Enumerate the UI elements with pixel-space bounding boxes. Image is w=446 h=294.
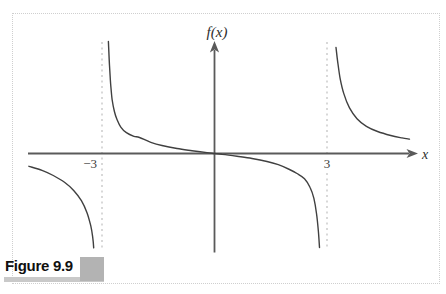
- x-axis-label: x: [421, 147, 429, 162]
- x-tick-label-pos3: 3: [324, 156, 331, 171]
- y-axis-label: f(x): [207, 24, 228, 41]
- curve-branch: [29, 166, 94, 248]
- x-tick-label-neg3: −3: [83, 156, 97, 171]
- function-graph: −3 3 f(x) x: [0, 0, 446, 294]
- caption-gray-block: [80, 257, 104, 281]
- curve-branch: [336, 48, 410, 140]
- figure-page: { "figure": { "caption": "Figure 9.9" },…: [0, 0, 446, 294]
- axes: [28, 41, 418, 253]
- figure-caption-text: Figure 9.9: [5, 257, 73, 274]
- function-curve: [29, 42, 410, 248]
